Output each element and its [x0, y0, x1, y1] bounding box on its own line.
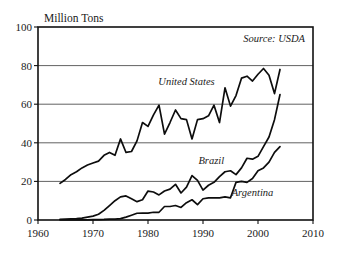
- y-tick-label-100: 100: [16, 21, 33, 33]
- y-tick-label-0: 0: [27, 214, 33, 226]
- series-label-brazil: Brazil: [198, 155, 224, 166]
- y-tick-label-60: 60: [21, 98, 33, 110]
- x-tick-label-2010: 2010: [302, 227, 325, 239]
- x-tick-label-2000: 2000: [247, 227, 270, 239]
- soybean-production-line-chart: 020406080100 196019701980199020002010 Mi…: [0, 0, 337, 253]
- y-axis-unit-label: Million Tons: [44, 12, 104, 24]
- x-tick-label-1990: 1990: [192, 227, 215, 239]
- y-axis-tick-labels: 020406080100: [16, 21, 33, 226]
- y-tick-label-80: 80: [21, 60, 33, 72]
- series-label-united-states: United States: [158, 76, 214, 87]
- x-axis-tick-labels: 196019701980199020002010: [27, 227, 325, 239]
- series-line-brazil: [60, 95, 280, 220]
- chart-container: 020406080100 196019701980199020002010 Mi…: [0, 0, 337, 253]
- y-tick-label-40: 40: [21, 137, 33, 149]
- x-tick-label-1960: 1960: [27, 227, 50, 239]
- y-tick-label-20: 20: [21, 175, 33, 187]
- x-tick-label-1970: 1970: [82, 227, 105, 239]
- series-label-argentina: Argentina: [231, 187, 274, 198]
- x-tick-label-1980: 1980: [137, 227, 160, 239]
- source-note: Source: USDA: [243, 33, 305, 44]
